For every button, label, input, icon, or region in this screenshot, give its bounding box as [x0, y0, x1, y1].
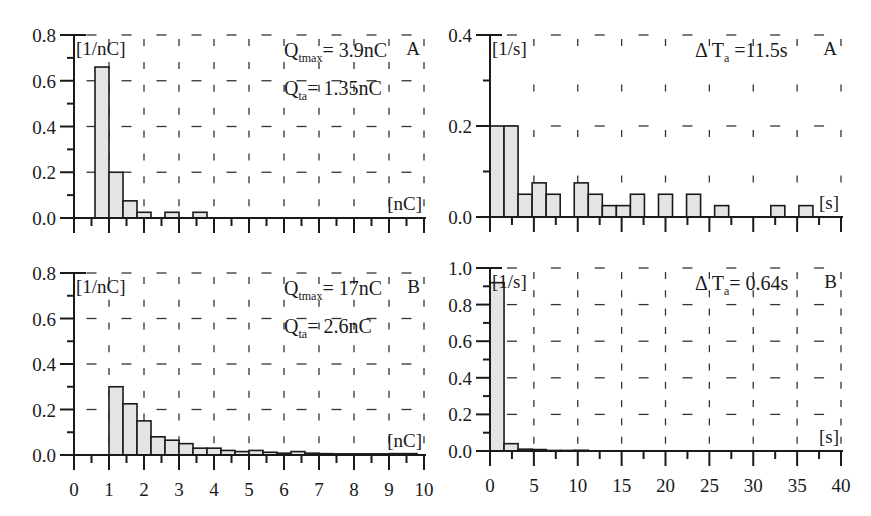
histogram-bar — [123, 404, 137, 455]
y-tick-label: 0.4 — [448, 368, 472, 389]
y-unit-label: [1/nC] — [76, 38, 126, 59]
bars — [490, 283, 588, 451]
histogram-bar — [95, 67, 109, 218]
x-tick-label: 2 — [139, 479, 149, 500]
y-tick-label: 0.8 — [32, 263, 56, 284]
y-tick-label: 0.6 — [32, 309, 56, 330]
histogram-bar — [137, 421, 151, 455]
histogram-bar — [588, 194, 602, 217]
y-tick-label: 0.6 — [448, 331, 472, 352]
x-tick-label: 30 — [744, 475, 763, 496]
y-tick-label: 0.0 — [32, 445, 56, 466]
annotation: Qtmax= 17nC — [284, 277, 382, 303]
histogram-figure: 0.00.20.40.60.8[1/nC][nC]AQtmax= 3.9nCQt… — [0, 0, 871, 516]
y-unit-label: [1/s] — [492, 38, 527, 59]
x-unit-label: [nC] — [387, 430, 422, 451]
histogram-bar — [179, 444, 193, 455]
x-tick-label: 0 — [69, 479, 79, 500]
histogram-bar — [771, 206, 785, 217]
histogram-bar — [123, 201, 137, 218]
histogram-bar — [490, 126, 504, 217]
histogram-bar — [532, 183, 546, 217]
histogram-bar — [165, 440, 179, 455]
grid — [507, 35, 841, 183]
y-tick-label: 0.4 — [32, 117, 56, 138]
y-tick-label: 0.8 — [32, 25, 56, 46]
annotation: Qtmax= 3.9nC — [284, 39, 387, 65]
axes — [476, 268, 843, 466]
y-tick-label: 0.4 — [448, 25, 472, 46]
y-tick-label: 0.4 — [32, 354, 56, 375]
x-tick-label: 10 — [415, 479, 434, 500]
x-unit-label: [s] — [819, 192, 839, 213]
y-tick-label: 0.0 — [32, 208, 56, 229]
x-tick-label: 5 — [244, 479, 254, 500]
histogram-bar — [504, 126, 518, 217]
x-tick-label: 4 — [209, 479, 219, 500]
y-tick-label: 0.2 — [32, 162, 56, 183]
panel-bottom-left: 0.00.20.40.60.8012345678910[1/nC][nC]BQt… — [32, 263, 433, 500]
x-tick-label: 6 — [279, 479, 289, 500]
x-tick-label: 10 — [568, 475, 587, 496]
x-tick-label: 7 — [314, 479, 324, 500]
y-tick-label: 0.0 — [448, 441, 472, 462]
histogram-bar — [799, 206, 813, 217]
bars — [109, 387, 417, 455]
histogram-bar — [193, 448, 207, 455]
y-tick-label: 0.2 — [32, 400, 56, 421]
histogram-bar — [715, 206, 729, 217]
bars — [490, 126, 813, 217]
annotation: Qta= 2.6nC — [284, 315, 372, 341]
bars — [95, 67, 207, 218]
histogram-bar — [207, 448, 221, 455]
x-tick-label: 25 — [700, 475, 719, 496]
panel-letter: B — [824, 271, 837, 292]
histogram-bar — [518, 194, 532, 217]
y-unit-label: [1/s] — [492, 271, 527, 292]
histogram-bar — [687, 194, 701, 217]
panel-letter: A — [406, 38, 420, 59]
x-tick-label: 9 — [384, 479, 394, 500]
panel-top-left: 0.00.20.40.60.8[1/nC][nC]AQtmax= 3.9nCQt… — [32, 25, 426, 233]
y-tick-label: 1.0 — [448, 258, 472, 279]
histogram-bar — [658, 194, 672, 217]
histogram-bar — [151, 437, 165, 455]
y-tick-label: 0.8 — [448, 295, 472, 316]
x-tick-label: 35 — [788, 475, 807, 496]
x-tick-label: 8 — [349, 479, 359, 500]
x-tick-label: 15 — [612, 475, 631, 496]
histogram-bar — [546, 194, 560, 217]
panel-top-right: 0.00.20.4[1/s][s]AΔ Ta =11.5s — [448, 25, 843, 232]
y-tick-label: 0.0 — [448, 207, 472, 228]
x-tick-label: 0 — [485, 475, 495, 496]
histogram-bar — [490, 283, 504, 451]
histogram-bar — [602, 206, 616, 217]
annotation: Δ Ta =11.5s — [695, 39, 788, 65]
panel-bottom-right: 0.00.20.40.60.81.00510152025303540[1/s][… — [448, 258, 850, 496]
x-tick-label: 1 — [104, 479, 114, 500]
histogram-bar — [109, 387, 123, 455]
y-tick-label: 0.2 — [448, 404, 472, 425]
x-unit-label: [nC] — [387, 193, 422, 214]
x-tick-label: 3 — [174, 479, 184, 500]
grid — [507, 268, 841, 444]
histogram-bar — [616, 206, 630, 217]
x-unit-label: [s] — [819, 426, 839, 447]
y-tick-label: 0.2 — [448, 116, 472, 137]
y-unit-label: [1/nC] — [76, 276, 126, 297]
histogram-bar — [109, 172, 123, 218]
x-tick-label: 5 — [529, 475, 539, 496]
panel-letter: A — [823, 38, 837, 59]
histogram-bar — [504, 444, 518, 451]
panel-letter: B — [407, 276, 420, 297]
y-tick-label: 0.6 — [32, 71, 56, 92]
x-tick-label: 20 — [656, 475, 675, 496]
histogram-bar — [574, 183, 588, 217]
histogram-bar — [630, 194, 644, 217]
x-tick-label: 40 — [832, 475, 851, 496]
